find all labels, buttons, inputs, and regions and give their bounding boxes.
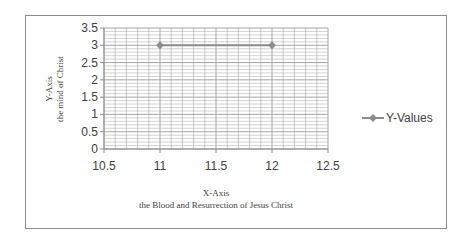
- legend-diamond-marker-icon: [369, 114, 377, 122]
- y-axis-title-line2: the mind of Christ: [55, 56, 65, 122]
- y-tick-label: 0: [91, 142, 98, 156]
- x-axis-title-line1: X-Axis: [203, 188, 230, 198]
- x-tick-label: 11.5: [205, 159, 228, 173]
- y-axis-title-line1: Y-Axis: [44, 76, 54, 102]
- x-axis-ticks: 10.51111.51212.5: [92, 149, 340, 173]
- y-tick-label: 1.5: [81, 90, 98, 104]
- y-tick-label: 3.5: [81, 21, 98, 35]
- y-tick-label: 2.5: [81, 56, 98, 70]
- x-tick-label: 10.5: [92, 159, 116, 173]
- x-tick-label: 11: [154, 159, 167, 173]
- y-axis-title: Y-Axis the mind of Christ: [44, 56, 65, 122]
- x-axis-title-line2: the Blood and Resurrection of Jesus Chri…: [139, 200, 293, 210]
- y-tick-label: 3: [91, 38, 98, 52]
- data-point-marker: [156, 41, 164, 49]
- legend: Y-Values: [362, 111, 433, 125]
- x-tick-label: 12.5: [316, 159, 340, 173]
- data-point-marker: [268, 41, 276, 49]
- y-tick-label: 0.5: [81, 125, 98, 139]
- chart-svg: 00.511.522.533.5 10.51111.51212.5 Y-Axis…: [0, 0, 470, 241]
- y-tick-label: 2: [91, 73, 98, 87]
- x-tick-label: 12: [265, 159, 279, 173]
- legend-label: Y-Values: [386, 111, 433, 125]
- y-axis-ticks: 00.511.522.533.5: [81, 21, 104, 156]
- y-tick-label: 1: [91, 107, 98, 121]
